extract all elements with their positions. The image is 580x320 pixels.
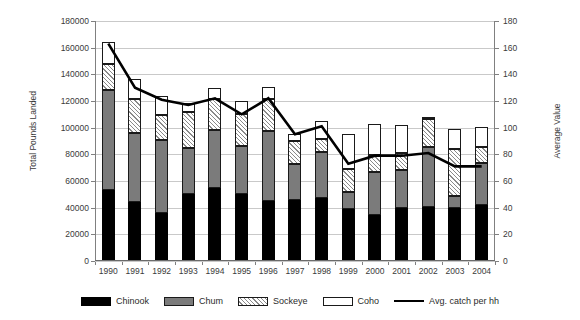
y-axis-right-tick-mark <box>495 128 499 129</box>
y-axis-left-tick-label: 80000 <box>33 150 89 158</box>
y-axis-right-tick-label: 60 <box>503 177 543 185</box>
legend-swatch-chinook-icon <box>81 297 111 306</box>
y-axis-right-tick-label: 40 <box>503 204 543 212</box>
gridline <box>95 261 495 262</box>
legend-item[interactable]: Chinook <box>81 296 149 306</box>
y-axis-right-tick-mark <box>495 154 499 155</box>
legend-label: Coho <box>358 296 380 306</box>
y-axis-right-tick-mark <box>495 234 499 235</box>
y-axis-left-tick-label: 120000 <box>33 97 89 105</box>
legend-label: Sockeye <box>273 296 308 306</box>
legend-swatch-line-icon <box>394 297 424 306</box>
y-axis-right-tick-label: 20 <box>503 230 543 238</box>
y-axis-left-tick-label: 0 <box>33 257 89 265</box>
legend-swatch-sockeye-icon <box>238 297 268 306</box>
legend-item[interactable]: Avg. catch per hh <box>394 296 499 306</box>
y-axis-right-tick-label: 80 <box>503 150 543 158</box>
legend-label: Avg. catch per hh <box>429 296 499 306</box>
y-axis-left-tick-label: 60000 <box>33 177 89 185</box>
legend-label: Chinook <box>116 296 149 306</box>
legend-item[interactable]: Coho <box>323 296 380 306</box>
y-axis-right-tick-label: 0 <box>503 257 543 265</box>
y-axis-right-title: Average Value <box>552 71 562 191</box>
y-axis-left-tick-label: 40000 <box>33 204 89 212</box>
line-series-avg-catch-per-hh <box>95 21 495 261</box>
y-axis-right-tick-label: 120 <box>503 97 543 105</box>
axis-baseline <box>95 260 495 261</box>
y-axis-right-tick-mark <box>495 208 499 209</box>
y-axis-left-tick-label: 160000 <box>33 44 89 52</box>
y-axis-right-tick-mark <box>495 181 499 182</box>
y-axis-left-tick-label: 100000 <box>33 124 89 132</box>
legend-item[interactable]: Sockeye <box>238 296 308 306</box>
y-axis-left-tick-label: 180000 <box>33 17 89 25</box>
y-axis-right-tick-label: 160 <box>503 44 543 52</box>
y-axis-right-tick-label: 140 <box>503 70 543 78</box>
y-axis-left-tick-label: 140000 <box>33 70 89 78</box>
y-axis-right-tick-mark <box>495 101 499 102</box>
y-axis-right-tick-label: 180 <box>503 17 543 25</box>
x-axis-tick-label: 2004 <box>465 266 499 276</box>
y-axis-right-tick-mark <box>495 21 499 22</box>
chart-container: Total Pounds Landed Average Value 020000… <box>0 0 580 320</box>
legend-item[interactable]: Chum <box>164 296 223 306</box>
legend-swatch-chum-icon <box>164 297 194 306</box>
legend-label: Chum <box>199 296 223 306</box>
legend-swatch-coho-icon <box>323 297 353 306</box>
y-axis-right-tick-mark <box>495 74 499 75</box>
y-axis-right-tick-mark <box>495 48 499 49</box>
plot-area <box>95 21 495 261</box>
y-axis-left-tick-label: 20000 <box>33 230 89 238</box>
avg-catch-line-path <box>108 44 481 167</box>
y-axis-right-tick-label: 100 <box>503 124 543 132</box>
x-axis-tick-mark <box>495 261 496 265</box>
chart-legend: ChinookChumSockeyeCohoAvg. catch per hh <box>0 296 580 306</box>
